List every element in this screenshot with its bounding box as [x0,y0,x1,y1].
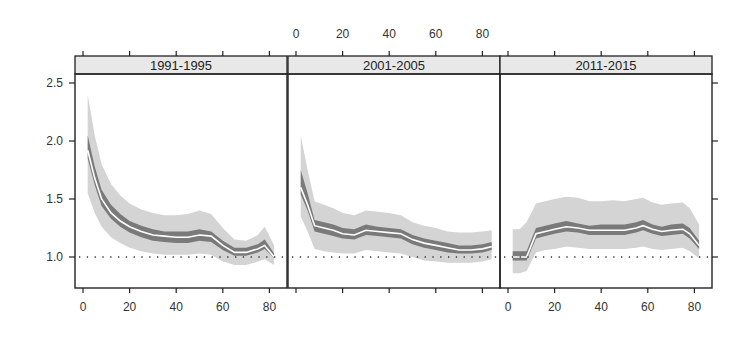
outer-band [301,135,492,263]
x-tick-label: 40 [595,300,609,314]
x-tick-label: 60 [216,300,230,314]
y-tick-label: 2.0 [46,134,63,148]
strip-label: 1991-1995 [150,58,212,73]
x-tick-label-top: 80 [476,27,490,41]
panel-1991-1995: 1991-1995 [75,56,287,288]
x-tick-label: 40 [170,300,184,314]
x-tick-label: 20 [123,300,137,314]
x-tick-label-top: 60 [429,27,443,41]
x-tick-label: 20 [548,300,562,314]
x-tick-label: 0 [80,300,87,314]
panels-group: 1991-19952001-20052011-2015 [75,56,712,288]
x-tick-label-top: 0 [293,27,300,41]
x-tick-label: 0 [505,300,512,314]
y-tick-label: 1.5 [46,192,63,206]
lattice-chart: 1991-19952001-20052011-2015 020406080020… [0,0,754,342]
strip-label: 2011-2015 [575,58,636,73]
panel-2011-2015: 2011-2015 [500,56,712,288]
x-tick-label: 80 [688,300,702,314]
y-tick-label: 1.0 [46,250,63,264]
x-tick-label: 80 [263,300,277,314]
x-tick-label-top: 20 [336,27,350,41]
x-tick-label: 60 [641,300,655,314]
strip-label: 2001-2005 [363,58,425,73]
y-tick-label: 2.5 [46,76,63,90]
x-tick-label-top: 40 [383,27,397,41]
panel-2001-2005: 2001-2005 [288,56,500,288]
